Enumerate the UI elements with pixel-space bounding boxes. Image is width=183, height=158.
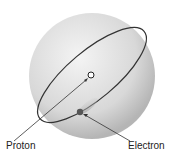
atom-illustration <box>0 0 183 158</box>
electron-dot <box>77 109 83 115</box>
proton-label: Proton <box>6 140 35 151</box>
proton-circle <box>88 72 94 78</box>
hydrogen-atom-diagram: Proton Electron <box>0 0 183 158</box>
electron-label: Electron <box>128 140 165 151</box>
